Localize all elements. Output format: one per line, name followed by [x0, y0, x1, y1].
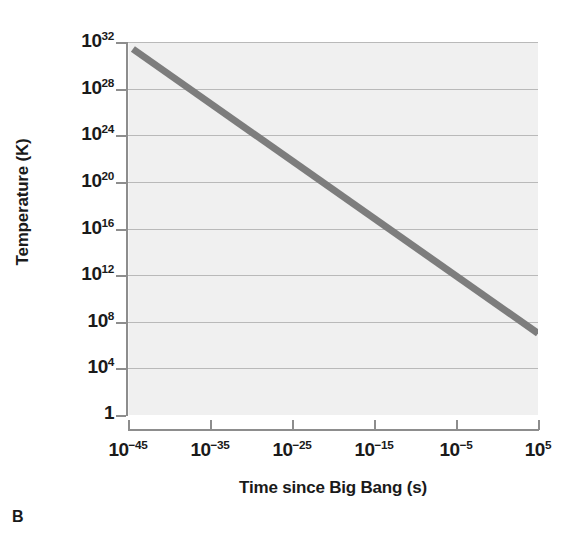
x-axis-tick: [456, 420, 458, 430]
x-axis-tick-label: 105: [483, 438, 577, 461]
y-axis-tick: [116, 135, 126, 137]
y-axis-tick-label: 1: [4, 402, 114, 424]
figure-panel-b: Temperature (K) 103210281024102010161012…: [0, 0, 577, 537]
y-axis-spine: [126, 42, 128, 416]
y-axis-tick: [116, 415, 126, 417]
x-axis-tick: [128, 420, 130, 430]
y-axis-tick-label: 104: [4, 355, 114, 378]
y-axis-tick: [116, 368, 126, 370]
panel-letter: B: [12, 508, 24, 526]
x-axis-tick: [210, 420, 212, 430]
x-axis-spine: [128, 429, 539, 431]
x-axis-title: Time since Big Bang (s): [128, 478, 538, 498]
data-line-svg: [128, 42, 538, 415]
temperature-line: [133, 49, 538, 333]
plot-area: [128, 42, 538, 415]
y-axis-tick-label: 1020: [4, 169, 114, 192]
y-axis-tick-label: 1024: [4, 122, 114, 145]
y-axis-tick-label: 108: [4, 309, 114, 332]
x-axis-tick: [538, 420, 540, 430]
y-axis-tick-label: 1032: [4, 29, 114, 52]
y-axis-tick-label: 1028: [4, 76, 114, 99]
y-axis-tick: [116, 182, 126, 184]
y-axis-tick: [116, 275, 126, 277]
y-axis-tick: [116, 322, 126, 324]
x-axis-tick: [292, 420, 294, 430]
y-axis-tick: [116, 89, 126, 91]
y-axis-tick-label: 1016: [4, 216, 114, 239]
x-axis-tick: [374, 420, 376, 430]
y-axis-tick: [116, 42, 126, 44]
y-axis-tick: [116, 229, 126, 231]
y-axis-tick-label: 1012: [4, 262, 114, 285]
